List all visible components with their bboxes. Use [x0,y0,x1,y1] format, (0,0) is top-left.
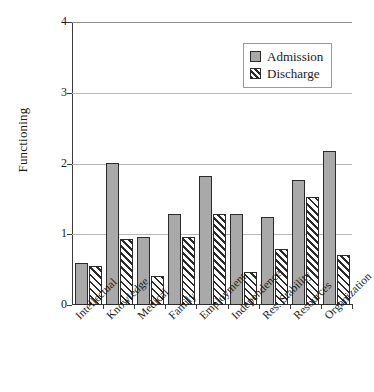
legend-item-admission: Admission [250,48,323,65]
y-tick-mark-0 [67,305,72,306]
legend: Admission Discharge [243,43,332,88]
x-tick-mark [165,304,166,309]
x-tick-mark [196,304,197,309]
x-tick-mark [228,304,229,309]
bar-group [75,22,106,305]
legend-item-discharge: Discharge [250,65,323,82]
y-tick-label-4: 4 [45,14,67,29]
y-tick-label-1: 1 [45,226,67,241]
y-tick-label-3: 3 [45,85,67,100]
bar-group [106,22,137,305]
legend-label-discharge: Discharge [267,67,319,81]
bar-group [137,22,168,305]
y-axis-title: Functioning [15,75,31,205]
legend-label-admission: Admission [267,50,323,64]
x-tick-mark [259,304,260,309]
x-tick-mark [290,304,291,309]
x-tick-mark [352,304,353,309]
hatched-swatch-icon [250,68,261,79]
bar-group [168,22,199,305]
x-tick-mark [134,304,135,309]
bar-chart: Functioning 01234 IntellectualKnowledgeM… [0,0,374,392]
bar-admission-family [168,214,181,305]
bar-admission-employment [199,176,212,305]
bar-group [199,22,230,305]
y-tick-label-2: 2 [45,156,67,171]
x-tick-mark [321,304,322,309]
solid-gray-swatch-icon [250,51,261,62]
y-tick-label-0: 0 [45,297,67,312]
x-tick-mark [103,304,104,309]
